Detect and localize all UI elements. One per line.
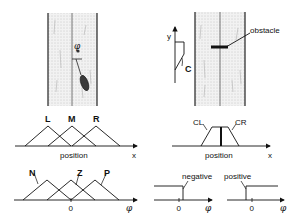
position-caption: position [60, 151, 88, 160]
chart-positive: 0 φ positive [224, 172, 287, 213]
corridor-left: φ [48, 13, 97, 106]
obstacle-bar [211, 46, 228, 49]
label-CL: CL [193, 118, 204, 127]
x-axis-label: x [132, 151, 136, 160]
sensor-angle-arc [182, 58, 183, 66]
label-N: N [29, 168, 36, 178]
zero-label: 0 [250, 204, 255, 213]
chart-angle-nzp: N Z P 0 φ [14, 168, 137, 213]
corridor-right: obstacle y C [167, 12, 280, 106]
label-Z: Z [77, 168, 83, 178]
diagram-canvas: φ obstacle y C L M R position x C [0, 0, 298, 221]
phi-axis-label: φ [126, 203, 133, 213]
negative-label: negative [182, 172, 213, 181]
phi-angle-label: φ [74, 41, 81, 51]
position-caption: position [205, 151, 233, 160]
membership-R [72, 126, 120, 146]
y-axis-label: y [167, 32, 171, 41]
chart-position-clcr: CL CR position x [172, 118, 272, 160]
cl-leader [203, 124, 207, 130]
phi-axis-label: φ [280, 203, 287, 213]
membership-N [23, 180, 71, 200]
membership-L [25, 126, 71, 146]
label-P: P [104, 168, 110, 178]
label-R: R [93, 114, 100, 124]
zero-label: 0 [69, 204, 74, 213]
x-axis-label: x [268, 151, 272, 160]
zero-label: 0 [177, 204, 182, 213]
obstacle-label: obstacle [250, 26, 280, 35]
membership-negative [154, 186, 183, 200]
sensor-geometry [175, 42, 184, 70]
label-L: L [45, 114, 51, 124]
positive-leader [241, 181, 246, 189]
chart-negative: 0 φ negative [154, 172, 213, 213]
phi-axis-label: φ [205, 203, 212, 213]
membership-P [71, 180, 119, 200]
corridor-floor [48, 13, 97, 106]
membership-positive [246, 186, 278, 200]
negative-leader [183, 181, 188, 189]
label-M: M [68, 114, 76, 124]
positive-label: positive [224, 172, 252, 181]
membership-M [48, 126, 96, 146]
label-CR: CR [235, 118, 247, 127]
sensor-c-label: C [185, 64, 192, 74]
chart-position-lmr: L M R position x [15, 114, 137, 160]
membership-Z [47, 180, 95, 200]
